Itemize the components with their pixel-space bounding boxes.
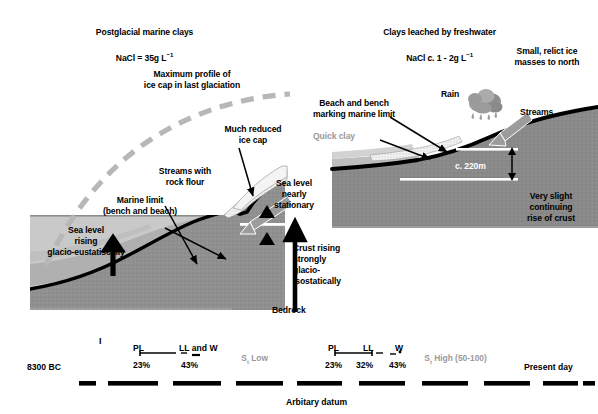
atterberg-right-pl: PL — [328, 343, 339, 353]
atterberg-left-pct-ll: 43% — [181, 360, 198, 370]
streams-rock-flour-label: Streams with rock flour — [135, 166, 235, 188]
timeline-start-label: 8300 BC — [27, 362, 61, 372]
sea-level-rising-label: Sea level rising glacio-eustatiscally — [22, 225, 150, 258]
rain-cloud-icon — [468, 89, 503, 120]
max-ice-profile-label: Maximum profile of ice cap in last glaci… — [112, 69, 272, 91]
timeline-tick-marker: I — [99, 336, 102, 346]
figure-canvas: Postglacial marine clays NaCl = 35g L−1 … — [0, 0, 598, 414]
timeline-end-label: Present day — [524, 362, 573, 372]
atterberg-left-sensitivity: St Low — [232, 343, 268, 375]
bedrock-label: Bedrock — [272, 305, 332, 316]
elevation-label: c. 220m — [455, 161, 513, 172]
atterberg-right-w: W — [395, 343, 403, 353]
streams-label-right: Streams — [520, 107, 580, 118]
timeline-datum-label: Arbitary datum — [286, 397, 347, 407]
beach-bench-label: Beach and bench marking marine limit — [299, 98, 409, 120]
atterberg-right-pct-w: 43% — [389, 360, 406, 370]
atterberg-left-pct-pl: 23% — [133, 360, 150, 370]
crust-rise-label-right: Very slight continuing rise of crust — [508, 191, 594, 224]
marine-limit-label: Marine limit (bench and beach) — [75, 195, 205, 217]
crust-rising-label: Crust rising strongly glacio- isostatica… — [293, 243, 373, 287]
reduced-ice-cap-label: Much reduced ice cap — [203, 124, 303, 146]
left-panel-title: Postglacial marine clays NaCl = 35g L−1 — [45, 16, 235, 75]
atterberg-right-pct-ll: 32% — [356, 360, 373, 370]
atterberg-left-pl: PL — [133, 343, 144, 353]
atterberg-right-sensitivity: St High (50-100) — [415, 343, 487, 375]
atterberg-right-pct-pl: 23% — [325, 360, 342, 370]
quick-clay-label: Quick clay — [313, 131, 375, 142]
atterberg-right-ll: LL — [363, 343, 374, 353]
atterberg-left-ll-w: LL and W — [179, 343, 218, 353]
sea-level-stationary-label: Sea level nearly stationary — [258, 178, 330, 211]
relict-ice-label: Small, relict ice masses to north — [497, 46, 597, 68]
rain-label: Rain — [430, 89, 470, 100]
